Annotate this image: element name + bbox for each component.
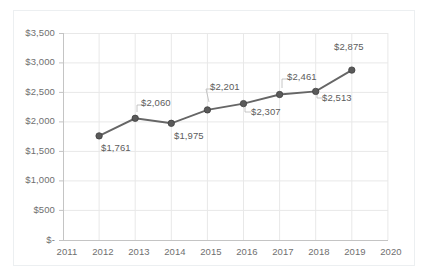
x-axis-tick-label: 2020	[369, 246, 413, 257]
y-axis-tick-label: $2,500	[14, 86, 55, 97]
line-chart: $3,500 $3,000 $2,500 $2,000 $1,500 $1,00…	[0, 0, 430, 280]
axis-lines	[63, 33, 388, 241]
y-axis-tick-label: $3,500	[14, 27, 55, 38]
data-point-2018	[313, 88, 319, 94]
y-tick-marks	[59, 34, 63, 241]
y-axis-tick-label: $2,000	[14, 115, 55, 126]
data-point-2012	[96, 133, 102, 139]
data-point-2013	[132, 115, 138, 121]
data-point-2014	[168, 120, 174, 126]
data-point-2015	[204, 107, 210, 113]
y-axis-tick-label: $1,000	[14, 174, 55, 185]
data-label-2017: $2,461	[287, 71, 317, 82]
y-axis-tick-label: $3,000	[14, 56, 55, 67]
y-axis-tick-label: $500	[14, 204, 55, 215]
y-axis-tick-label: $-	[14, 234, 55, 245]
vertical-gridlines	[99, 33, 388, 240]
data-label-2018: $2,513	[322, 92, 352, 103]
data-point-2017	[276, 91, 282, 97]
data-label-2013: $2,060	[141, 97, 171, 108]
y-axis-tick-label: $1,500	[14, 145, 55, 156]
data-point-2016	[240, 100, 246, 106]
data-label-2019: $2,875	[334, 41, 364, 52]
plot-area	[0, 0, 430, 280]
data-label-2016: $2,307	[251, 106, 281, 117]
data-label-2015: $2,201	[210, 81, 240, 92]
data-label-2012: $1,761	[101, 142, 131, 153]
data-point-2019	[349, 67, 355, 73]
data-label-2014: $1,975	[174, 130, 204, 141]
horizontal-gridlines	[63, 34, 388, 211]
